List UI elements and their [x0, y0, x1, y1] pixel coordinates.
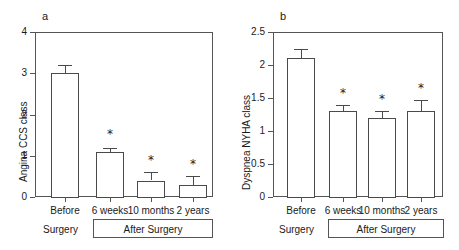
x-tick-a-before — [65, 197, 66, 202]
group-box-label-b: After Surgery — [329, 223, 443, 234]
error-bar-b-before-stem — [301, 49, 302, 59]
error-bar-a-2-years-stem — [193, 176, 194, 184]
significance-star-b-2-years: * — [411, 82, 431, 94]
y-tick-b-2 — [268, 65, 273, 66]
x-tick-b-2-years — [421, 197, 422, 202]
group-label-a-surgery: Surgery — [33, 224, 88, 235]
error-bar-a-10-months-cap — [144, 172, 158, 173]
panel-letter-a: a — [42, 11, 48, 22]
y-tick-label-a-3: 3 — [6, 68, 27, 78]
y-tick-b-0 — [268, 197, 273, 198]
significance-star-a-6-weeks: * — [100, 128, 120, 140]
bar-a-6-weeks — [96, 152, 124, 198]
y-tick-a-4 — [30, 32, 35, 33]
error-bar-b-6-weeks-cap — [336, 105, 350, 106]
error-bar-b-before-cap — [294, 49, 308, 50]
bar-a-10-months — [137, 181, 165, 199]
y-tick-a-0 — [30, 197, 35, 198]
y-tick-label-b-1-5: 1.5 — [237, 93, 265, 103]
x-tick-a-10-months — [151, 197, 152, 202]
y-tick-a-3 — [30, 73, 35, 74]
group-box-a-after-surgery: After Surgery — [93, 219, 213, 238]
y-tick-label-a-1: 1 — [6, 151, 27, 161]
significance-star-a-2-years: * — [183, 158, 203, 170]
error-bar-a-6-weeks-cap — [103, 148, 117, 149]
figure-bar-charts: a Angina CCS class 0 1 2 3 4 — [0, 0, 459, 250]
y-tick-b-0-5 — [268, 164, 273, 165]
bar-b-10-months — [368, 118, 396, 198]
group-label-b-surgery: Surgery — [269, 224, 324, 235]
y-tick-label-b-0-5: 0.5 — [237, 159, 265, 169]
y-tick-label-a-0: 0 — [6, 192, 27, 202]
error-bar-a-10-months-stem — [151, 172, 152, 180]
panel-letter-b: b — [280, 11, 286, 22]
significance-star-b-10-months: * — [372, 93, 392, 105]
bar-b-6-weeks — [329, 111, 357, 198]
y-tick-b-2-5 — [268, 32, 273, 33]
y-tick-b-1 — [268, 131, 273, 132]
error-bar-b-2-years-stem — [421, 100, 422, 111]
y-tick-b-1-5 — [268, 98, 273, 99]
significance-star-a-10-months: * — [141, 154, 161, 166]
y-tick-label-b-0: 0 — [237, 192, 265, 202]
significance-star-b-6-weeks: * — [333, 87, 353, 99]
x-tick-b-6-weeks — [343, 197, 344, 202]
y-tick-label-b-2: 2 — [237, 60, 265, 70]
x-tick-label-a-2-years: 2 years — [167, 205, 219, 216]
bar-a-2-years — [179, 185, 207, 198]
x-tick-b-before — [301, 197, 302, 202]
x-tick-b-10-months — [382, 197, 383, 202]
y-tick-label-b-2-5: 2.5 — [237, 27, 265, 37]
group-box-b-after-surgery: After Surgery — [328, 219, 444, 238]
error-bar-b-2-years-cap — [414, 100, 428, 101]
x-tick-a-2-years — [193, 197, 194, 202]
panel-b: b Dyspnea NYHA class 0 0.5 1 1.5 2 2.5 — [229, 0, 459, 250]
y-tick-label-a-2: 2 — [6, 110, 27, 120]
y-tick-a-2 — [30, 115, 35, 116]
panel-a: a Angina CCS class 0 1 2 3 4 — [0, 0, 229, 250]
x-tick-a-6-weeks — [110, 197, 111, 202]
bar-a-before — [51, 73, 79, 198]
error-bar-b-10-months-cap — [375, 111, 389, 112]
error-bar-a-before-stem — [65, 65, 66, 73]
bar-b-2-years — [407, 111, 435, 198]
y-tick-label-a-4: 4 — [6, 27, 27, 37]
x-tick-label-b-2-years: 2 years — [395, 205, 447, 216]
bar-b-before — [287, 58, 315, 198]
error-bar-a-2-years-cap — [186, 176, 200, 177]
error-bar-a-before-cap — [58, 65, 72, 66]
y-tick-label-b-1: 1 — [237, 126, 265, 136]
y-axis-label-dyspnea: Dyspnea NYHA class — [242, 95, 252, 190]
group-box-label-a: After Surgery — [94, 223, 212, 234]
y-tick-a-1 — [30, 156, 35, 157]
